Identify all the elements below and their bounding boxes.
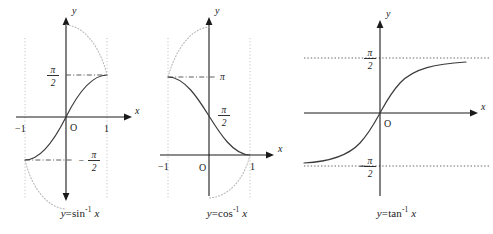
caption-variable: x — [411, 207, 416, 219]
panel-arctangent: x y O π 2 − π 2 y=tan-1 x — [300, 0, 493, 234]
y-tick-label-pi-over-2: π 2 — [218, 105, 230, 128]
pi-denominator: 2 — [368, 169, 373, 179]
curve-extension-upper — [168, 27, 209, 77]
caption-function: sin — [72, 207, 85, 219]
panel-arcsine: x y O −1 1 π 2 − π 2 y=sin-1 x — [0, 0, 160, 234]
y-axis-label: y — [214, 5, 220, 16]
x-axis-label: x — [134, 105, 140, 116]
x-axis-label: x — [480, 101, 486, 112]
pi-denominator: 2 — [92, 163, 97, 173]
pi-numerator: π — [368, 156, 373, 166]
origin-label: O — [199, 162, 206, 173]
pi-denominator: 2 — [222, 118, 227, 128]
arctangent-plot: x y O π 2 − π 2 — [300, 0, 493, 205]
pi-denominator: 2 — [368, 61, 373, 71]
caption-variable: x — [94, 207, 99, 219]
pi-numerator: π — [368, 48, 373, 58]
caption-exponent: -1 — [233, 205, 239, 214]
inverse-trig-functions-figure: x y O −1 1 π 2 − π 2 y=sin-1 x — [0, 0, 493, 234]
y-tick-label-pi: π — [220, 72, 225, 82]
y-axis-label: y — [385, 8, 391, 19]
origin-label: O — [384, 118, 391, 129]
caption-exponent: -1 — [402, 205, 408, 214]
pi-numerator: π — [222, 105, 227, 115]
curve-extension-lower — [209, 155, 250, 198]
x-axis-arrowhead — [124, 114, 132, 121]
pi-numerator: π — [92, 150, 97, 160]
x-tick-label-neg-one: −1 — [158, 161, 169, 172]
caption-variable: x — [242, 207, 247, 219]
x-axis-arrowhead — [266, 152, 274, 159]
pi-denominator: 2 — [51, 78, 56, 88]
curve-extension-upper — [66, 25, 107, 75]
y-axis-arrowhead-down — [63, 193, 70, 201]
x-axis-arrowhead — [470, 110, 478, 117]
origin-label: O — [70, 122, 77, 133]
x-axis-label: x — [277, 143, 283, 154]
y-axis-arrowhead-up — [63, 17, 70, 25]
y-axis-arrowhead-up — [206, 17, 213, 25]
y-tick-label-pi-over-2: π 2 — [364, 48, 376, 71]
y-tick-label-neg-pi-over-2: − π 2 — [358, 156, 376, 179]
caption-arccosine: y=cos-1 x — [152, 205, 302, 219]
pi-numerator: π — [51, 65, 56, 75]
caption-function: tan — [388, 207, 402, 219]
panel-arccosine: x y O −1 1 π π 2 y=cos-1 x — [152, 0, 302, 234]
caption-arcsine: y=sin-1 x — [0, 205, 160, 219]
arcsine-plot: x y O −1 1 π 2 − π 2 — [0, 0, 160, 205]
curve-extension-lower — [25, 160, 66, 209]
arccosine-plot: x y O −1 1 π π 2 — [152, 0, 302, 205]
x-tick-label-pos-one: 1 — [250, 161, 255, 172]
y-tick-label-neg-pi-over-2: − π 2 — [78, 150, 100, 173]
caption-exponent: -1 — [85, 205, 91, 214]
y-axis-label: y — [71, 5, 77, 16]
minus-sign: − — [358, 162, 364, 172]
caption-function: cos — [218, 207, 233, 219]
y-axis-arrowhead-up — [377, 20, 384, 28]
x-tick-label-pos-one: 1 — [104, 123, 109, 134]
y-tick-label-pi-over-2: π 2 — [47, 65, 59, 88]
caption-arctangent: y=tan-1 x — [300, 205, 493, 219]
x-tick-label-neg-one: −1 — [15, 123, 26, 134]
minus-sign: − — [78, 156, 84, 166]
